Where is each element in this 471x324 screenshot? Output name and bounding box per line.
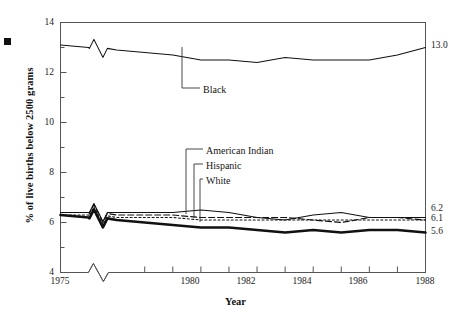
x-tick-label: 1984: [282, 276, 322, 286]
leader-black: [182, 47, 200, 88]
x-tick-label: 1980: [170, 276, 210, 286]
x-axis-title: Year: [0, 296, 471, 307]
series-label-american-indian: American Indian: [206, 145, 273, 156]
y-axis-minor-ticks: [61, 48, 65, 248]
series-lines: [61, 39, 426, 232]
x-tick-label: 1986: [338, 276, 378, 286]
label-leader-lines: [182, 47, 203, 222]
end-value-white-total: 5.6: [431, 226, 443, 236]
series-line-white: [61, 207, 426, 225]
end-value-black: 13.0: [431, 40, 448, 50]
series-line-black: [61, 39, 426, 62]
leader-white: [200, 179, 203, 222]
x-tick-label: 1988: [405, 276, 445, 286]
axis-break-marks: [88, 264, 108, 282]
end-value-hispanic: 6.1: [431, 213, 443, 223]
x-tick-label: 1982: [226, 276, 266, 286]
series-label-hispanic: Hispanic: [206, 160, 242, 171]
end-value-american-indian: 6.2: [431, 203, 443, 213]
series-label-white: White: [206, 175, 230, 186]
series-label-black: Black: [203, 84, 226, 95]
y-axis-title: % of live births below 2500 grams: [24, 41, 35, 251]
y-tick-label: 14: [28, 17, 54, 27]
x-axis-ticks: [145, 267, 426, 273]
x-tick-label: 1975: [40, 276, 80, 286]
